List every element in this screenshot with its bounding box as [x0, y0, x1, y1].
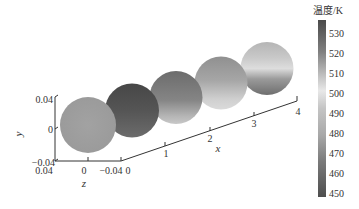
colorbar-tick-510: 510: [329, 68, 344, 79]
sphere-4: [241, 42, 294, 95]
temperature-sphere-chart: 0.04 0 −0.04 y 0.04 0 −0.04 z 0 1 2 3 4 …: [0, 0, 359, 209]
x-tick-4: 4: [296, 106, 301, 117]
sphere-3: [195, 57, 248, 110]
z-tick-right: −0.04: [99, 165, 122, 176]
colorbar: [318, 20, 326, 197]
colorbar-tick-450: 450: [329, 188, 344, 199]
x-tick-3: 3: [252, 118, 257, 129]
colorbar-tick-490: 490: [329, 108, 344, 119]
sphere-0: [60, 97, 116, 153]
colorbar-tick-520: 520: [329, 48, 344, 59]
x-tick-1: 1: [164, 148, 169, 159]
colorbar-tick-500: 500: [329, 88, 344, 99]
y-tick-mid: 0: [48, 124, 53, 135]
y-tick-top: 0.04: [36, 94, 54, 105]
z-axis-label: z: [81, 177, 87, 189]
z-tick-left: 0.04: [35, 165, 53, 176]
colorbar-tick-460: 460: [329, 168, 344, 179]
colorbar-tick-470: 470: [329, 148, 344, 159]
x-tick-0: 0: [126, 165, 131, 176]
z-tick-mid: 0: [82, 165, 87, 176]
colorbar-tick-480: 480: [329, 128, 344, 139]
y-axis-label: y: [12, 131, 24, 137]
x-axis-label: x: [215, 142, 221, 154]
colorbar-title: 温度/K: [313, 4, 344, 16]
x-tick-2: 2: [208, 133, 213, 144]
colorbar-tick-530: 530: [329, 28, 344, 39]
